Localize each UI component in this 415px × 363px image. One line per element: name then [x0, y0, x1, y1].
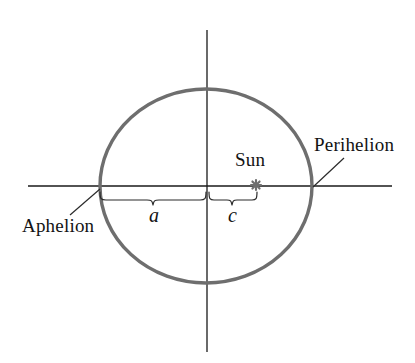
leader-line-perihelion	[313, 158, 344, 187]
sun-label: Sun	[235, 150, 265, 169]
orbit-diagram-figure: Aphelion Perihelion Sun a c	[0, 0, 415, 363]
sun-marker-icon	[251, 180, 261, 190]
leader-line-aphelion	[70, 189, 100, 215]
focal-distance-label: c	[228, 205, 237, 225]
aphelion-label: Aphelion	[22, 216, 94, 235]
perihelion-label: Perihelion	[314, 135, 394, 154]
semi-major-axis-label: a	[149, 205, 159, 225]
diagram-canvas	[0, 0, 415, 363]
